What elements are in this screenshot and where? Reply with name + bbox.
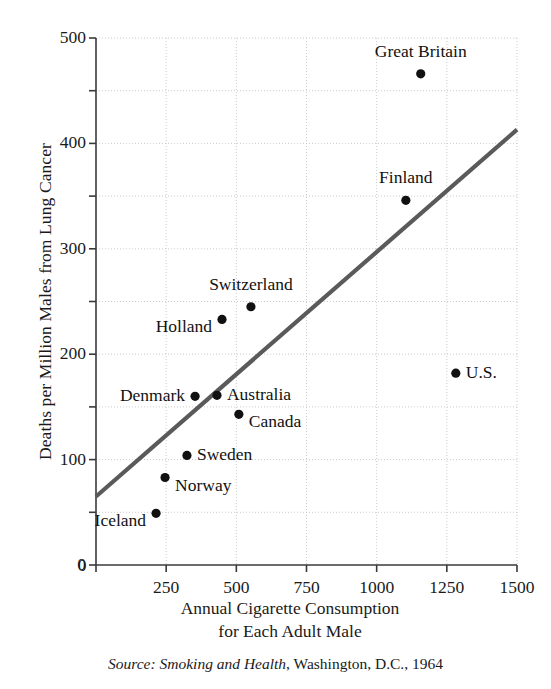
source-work-title: Smoking and Health bbox=[160, 655, 287, 672]
data-point-switzerland bbox=[246, 302, 255, 311]
plot-area bbox=[96, 38, 517, 565]
y-axis-title: Deaths per Million Males from Lung Cance… bbox=[30, 38, 60, 565]
x-axis-title-line-2: for Each Adult Male bbox=[60, 620, 520, 643]
scatter-plot-figure: Deaths per Million Males from Lung Cance… bbox=[0, 0, 551, 689]
y-tick-label: 200 bbox=[40, 345, 86, 363]
x-axis-title: Annual Cigarette Consumption for Each Ad… bbox=[60, 597, 520, 643]
y-tick-label: 300 bbox=[40, 240, 86, 258]
y-tick-label: 100 bbox=[40, 451, 86, 469]
data-point-holland bbox=[217, 315, 226, 324]
x-tick-label: 250 bbox=[131, 579, 201, 597]
point-label-u-s: U.S. bbox=[466, 364, 497, 382]
plot-canvas bbox=[96, 38, 517, 565]
point-label-iceland: Iceland bbox=[95, 513, 147, 531]
point-label-holland: Holland bbox=[156, 319, 212, 337]
trend-line bbox=[96, 130, 517, 497]
data-point-iceland bbox=[151, 509, 160, 518]
point-label-norway: Norway bbox=[175, 477, 231, 495]
point-label-canada: Canada bbox=[249, 414, 301, 432]
point-label-switzerland: Switzerland bbox=[209, 276, 293, 294]
data-point-great-britain bbox=[416, 69, 425, 78]
source-publication-info: , Washington, D.C., 1964 bbox=[286, 655, 443, 672]
data-point-norway bbox=[160, 473, 169, 482]
point-label-denmark: Denmark bbox=[120, 388, 185, 406]
point-label-finland: Finland bbox=[379, 170, 432, 188]
tick-marks bbox=[89, 38, 517, 572]
grid-lines bbox=[96, 38, 517, 565]
data-point-finland bbox=[401, 196, 410, 205]
data-point-denmark bbox=[190, 392, 199, 401]
point-label-australia: Australia bbox=[227, 387, 291, 405]
trend-line-segment bbox=[96, 130, 517, 497]
data-point-australia bbox=[212, 391, 221, 400]
y-tick-label: 500 bbox=[40, 29, 86, 47]
x-axis-title-line-1: Annual Cigarette Consumption bbox=[60, 597, 520, 620]
point-label-great-britain: Great Britain bbox=[375, 43, 467, 61]
source-caption: Source: Smoking and Health, Washington, … bbox=[0, 655, 551, 673]
x-tick-label: 1500 bbox=[482, 579, 551, 597]
data-point-canada bbox=[234, 410, 243, 419]
x-tick-label: 1000 bbox=[342, 579, 412, 597]
x-tick-label: 500 bbox=[201, 579, 271, 597]
source-prefix: Source: bbox=[108, 655, 156, 672]
point-label-sweden: Sweden bbox=[197, 447, 252, 465]
x-tick-label: 1250 bbox=[412, 579, 482, 597]
y-tick-label: 400 bbox=[40, 135, 86, 153]
data-point-u-s bbox=[451, 369, 460, 378]
data-point-sweden bbox=[182, 451, 191, 460]
x-tick-label: 750 bbox=[272, 579, 342, 597]
